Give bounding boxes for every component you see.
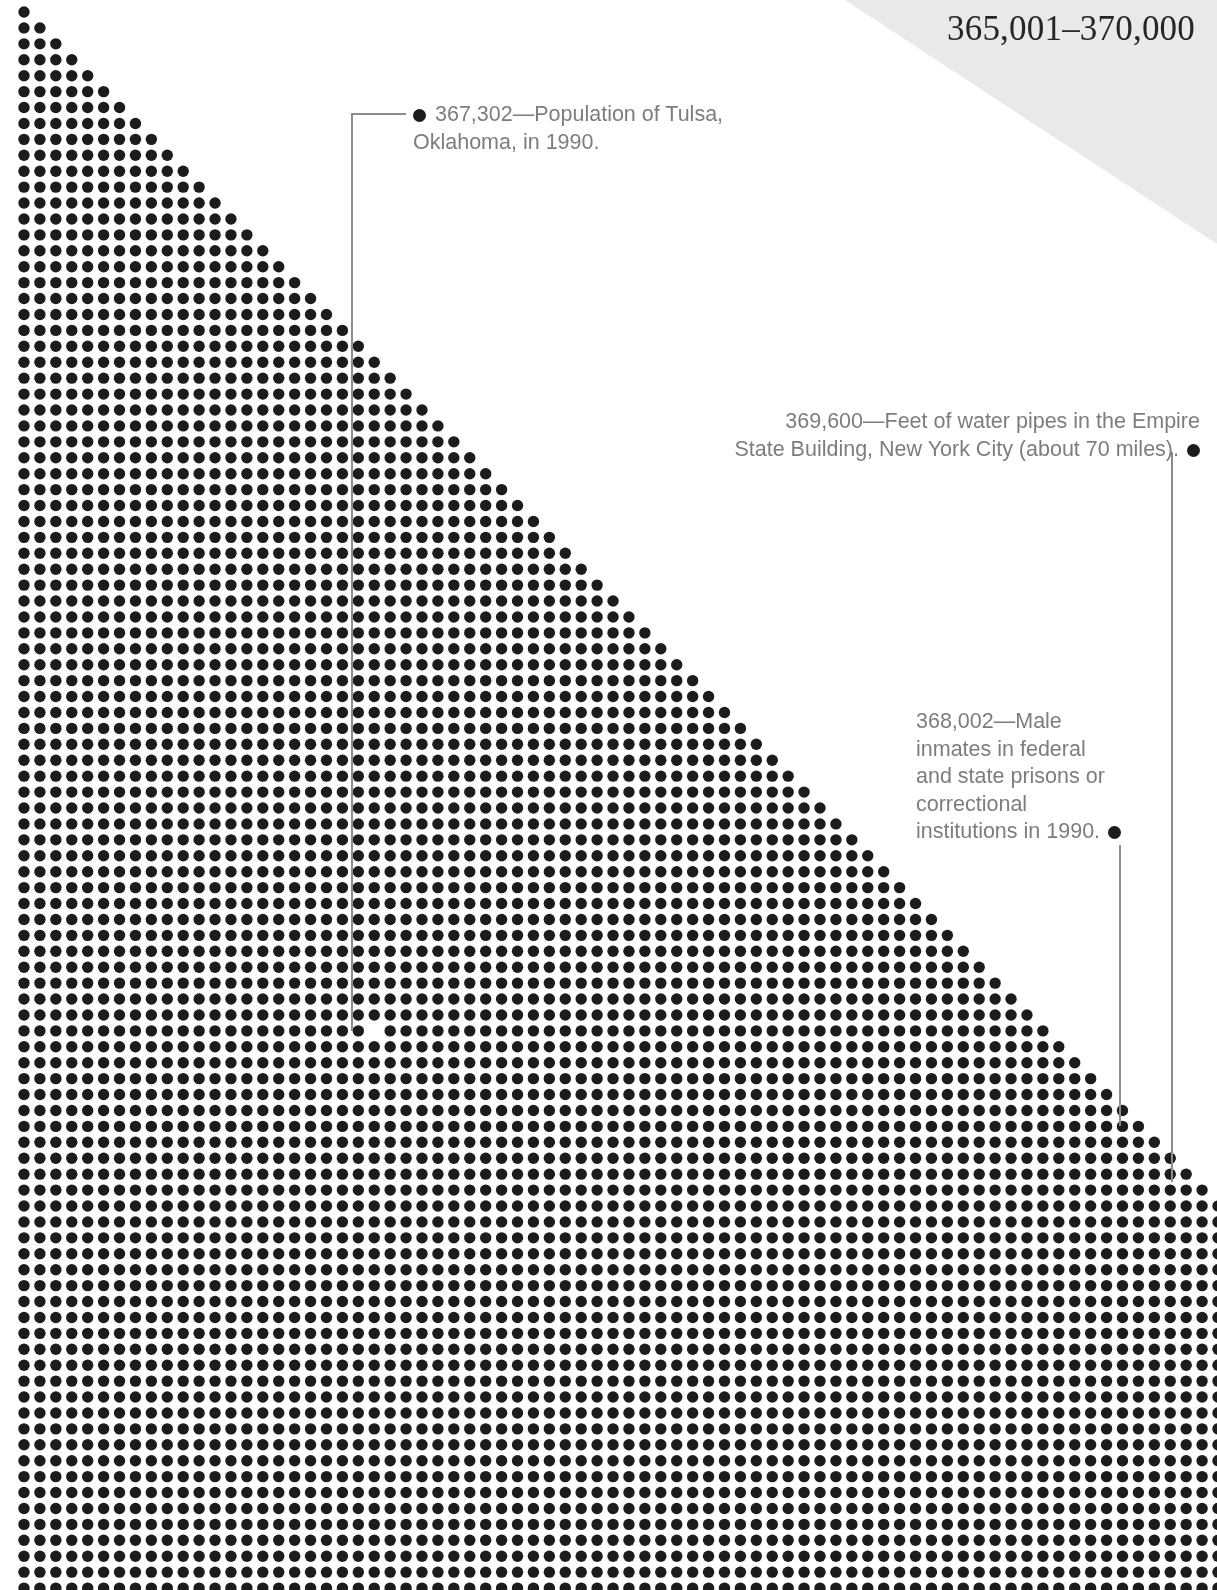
annotation-bullet-icon [1187,444,1200,457]
annotation-male-inmates: 368,002—Male inmates in federal and stat… [916,708,1146,846]
annotation-bullet-icon [413,109,426,122]
annotation-tulsa: 367,302—Population of Tulsa, Oklahoma, i… [413,101,773,156]
annotation-empire-state-pipes: 369,600—Feet of water pipes in the Empir… [680,408,1200,463]
annotation-bullet-icon [1108,826,1121,839]
annotation-inmates-text: 368,002—Male inmates in federal and stat… [916,709,1105,843]
page-title: 365,001–370,000 [947,9,1195,49]
annotation-pipes-text: 369,600—Feet of water pipes in the Empir… [734,409,1200,461]
page-root: 365,001–370,000 367,302—Population of Tu… [0,0,1217,1590]
annotation-tulsa-text: 367,302—Population of Tulsa, Oklahoma, i… [413,102,723,154]
